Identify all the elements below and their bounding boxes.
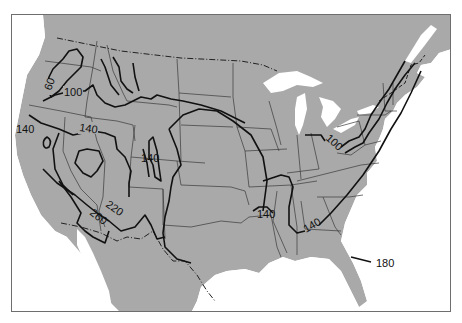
label-140-ark: 140: [257, 208, 275, 220]
label-100-west: 100: [64, 86, 82, 98]
us-contour-map: 60 100 140 140 140 220 260 100 140 140 1…: [12, 15, 451, 312]
label-140-nw: 140: [16, 123, 34, 135]
label-140-mid: 140: [79, 121, 99, 135]
label-180: 180: [376, 257, 394, 269]
map-frame: 60 100 140 140 140 220 260 100 140 140 1…: [11, 14, 451, 312]
label-140-rockies: 140: [141, 152, 159, 164]
